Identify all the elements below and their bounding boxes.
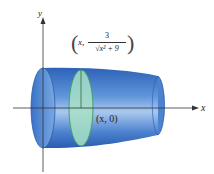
y-axis-label: y <box>38 8 42 18</box>
point-label: (x, 0) <box>96 113 118 124</box>
y-axis-arrow-icon <box>41 17 46 24</box>
x-axis-arrow-icon <box>192 106 199 111</box>
diagram-graphic <box>0 0 214 174</box>
solid-of-revolution-diagram: y x (x, 0) ( x, 3 √x² + 9 ) <box>0 0 214 174</box>
right-cap <box>158 76 165 135</box>
x-axis-label: x <box>201 102 205 113</box>
